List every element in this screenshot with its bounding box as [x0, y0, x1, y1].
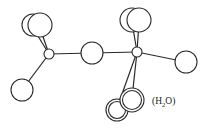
atom-middle-bridge	[81, 42, 103, 64]
atom-left-center	[44, 49, 54, 59]
atom-far-right	[175, 51, 197, 73]
atom-top-right-front	[127, 8, 151, 32]
atom-water-front-inner	[123, 91, 142, 110]
atom-right-center	[132, 47, 142, 57]
water-label-close: O)	[165, 96, 175, 107]
water-label: (H2O)	[152, 96, 175, 108]
atom-bottom-left	[11, 79, 33, 101]
water-label-open: (H	[152, 96, 162, 107]
atom-top-left-front	[28, 13, 52, 37]
molecule-diagram: (H2O)	[0, 0, 207, 131]
